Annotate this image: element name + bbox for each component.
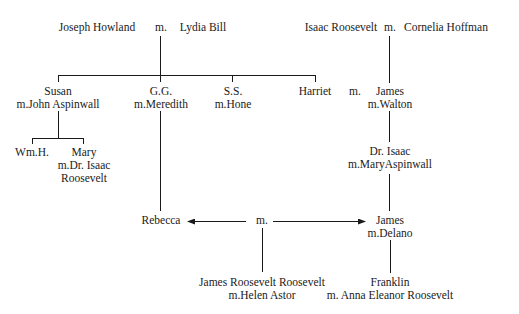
person-name: S.S. — [215, 85, 252, 98]
person-spouse: m.Meredith — [134, 98, 188, 111]
marriage-label-rebecca-james: m. — [256, 214, 268, 227]
person-spouse-cont: Roosevelt — [58, 172, 111, 185]
marriage-label-roosevelt: m. — [384, 21, 396, 34]
person-name: Franklin — [327, 276, 453, 289]
person-isaac-roosevelt: Isaac Roosevelt — [305, 21, 378, 34]
person-spouse: m.John Aspinwall — [16, 98, 99, 111]
person-ss: S.S. m.Hone — [215, 85, 252, 111]
person-name: Dr. Isaac — [348, 145, 432, 158]
person-susan: Susan m.John Aspinwall — [16, 85, 99, 111]
person-name: James — [368, 85, 413, 98]
person-harriet: Harriet — [299, 85, 332, 98]
person-cornelia-hoffman: Cornelia Hoffman — [404, 21, 488, 34]
person-name: James — [367, 214, 412, 227]
person-james-roosevelt-roosevelt: James Roosevelt Roosevelt m.Helen Astor — [199, 276, 325, 302]
person-name: G.G. — [134, 85, 188, 98]
person-spouse: m.Walton — [368, 98, 413, 111]
person-spouse: m.Helen Astor — [199, 289, 325, 302]
person-name: James Roosevelt Roosevelt — [199, 276, 325, 289]
person-rebecca: Rebecca — [142, 214, 181, 227]
person-spouse: m.Delano — [367, 227, 412, 240]
person-wm-h: Wm.H. — [15, 146, 49, 159]
family-tree-diagram: Joseph Howland m. Lydia Bill Isaac Roose… — [0, 0, 519, 314]
person-dr-isaac: Dr. Isaac m.MaryAspinwall — [348, 145, 432, 171]
person-spouse: m.Hone — [215, 98, 252, 111]
person-spouse: m.MaryAspinwall — [348, 158, 432, 171]
person-spouse: m.Dr. Isaac — [58, 159, 111, 172]
person-james-walton: James m.Walton — [368, 85, 413, 111]
person-gg: G.G. m.Meredith — [134, 85, 188, 111]
marriage-label-harriet: m. — [349, 85, 361, 98]
person-name: Mary — [58, 146, 111, 159]
person-franklin: Franklin m. Anna Eleanor Roosevelt — [327, 276, 453, 302]
person-name: Susan — [16, 85, 99, 98]
person-spouse: m. Anna Eleanor Roosevelt — [327, 289, 453, 302]
marriage-label-howland: m. — [155, 21, 167, 34]
person-joseph-howland: Joseph Howland — [59, 21, 135, 34]
person-lydia-bill: Lydia Bill — [180, 21, 226, 34]
person-james-delano: James m.Delano — [367, 214, 412, 240]
person-mary: Mary m.Dr. Isaac Roosevelt — [58, 146, 111, 185]
